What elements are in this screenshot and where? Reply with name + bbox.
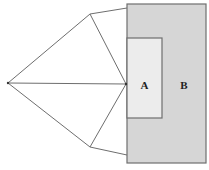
edge-top-b-top	[90, 8, 127, 14]
label-a: A	[141, 79, 149, 91]
edge-apex-top	[8, 14, 90, 83]
edge-apex-bottom	[8, 83, 90, 147]
edge-bottom-mid	[90, 84, 126, 147]
edge-top-mid	[90, 14, 126, 84]
region-a	[127, 38, 162, 118]
apex-point	[7, 82, 9, 84]
mid-point	[125, 83, 127, 85]
label-b: B	[180, 79, 188, 91]
diagram: A B	[0, 0, 209, 170]
edge-bottom-b-bottom	[90, 147, 127, 155]
edge-apex-mid	[8, 83, 126, 84]
